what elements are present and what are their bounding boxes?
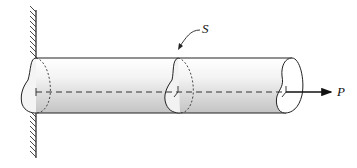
section-s-leader-arrowhead [178,43,183,50]
section-s-leader [180,30,200,46]
load-label-p: P [337,85,345,98]
bar-diagram [0,0,357,168]
section-label-s: S [202,22,209,35]
